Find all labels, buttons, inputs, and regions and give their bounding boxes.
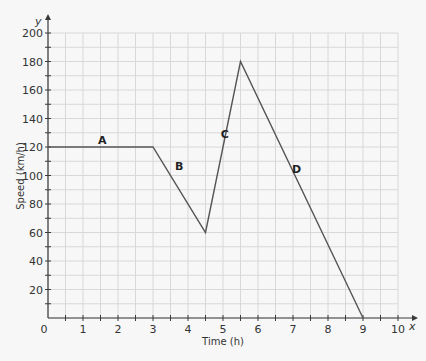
x-tick-label: 2: [115, 323, 122, 336]
x-axis-letter: x: [408, 320, 416, 333]
y-tick-label: 180: [22, 56, 43, 69]
x-tick-label: 5: [220, 323, 227, 336]
segment-label: B: [175, 160, 183, 173]
x-tick-label: 8: [325, 323, 332, 336]
x-tick-label: 1: [80, 323, 87, 336]
grid-lines: [48, 33, 398, 318]
y-tick-label: 140: [22, 113, 43, 126]
y-tick-label: 80: [29, 198, 43, 211]
speed-time-graph: 01234567891020406080100120140160180200 A…: [0, 0, 426, 361]
segment-label: D: [292, 163, 301, 176]
x-axis-title: Time (h): [201, 336, 244, 347]
y-axis-title: Speed (km/h): [15, 142, 26, 210]
y-axis-letter: y: [34, 15, 42, 28]
y-tick-label: 20: [29, 284, 43, 297]
x-tick-label: 9: [360, 323, 367, 336]
x-tick-label: 7: [290, 323, 297, 336]
x-tick-label: 6: [255, 323, 262, 336]
segment-label: C: [221, 128, 229, 141]
x-tick-label: 10: [391, 323, 405, 336]
x-tick-label: 3: [150, 323, 157, 336]
x-tick-label: 0: [41, 323, 48, 336]
y-tick-label: 160: [22, 84, 43, 97]
y-tick-label: 40: [29, 255, 43, 268]
x-tick-label: 4: [185, 323, 192, 336]
segment-label: A: [98, 134, 107, 147]
y-tick-label: 60: [29, 227, 43, 240]
y-tick-label: 200: [22, 27, 43, 40]
segment-labels: ABCD: [98, 128, 301, 175]
y-axis-arrow-icon: [45, 14, 51, 20]
